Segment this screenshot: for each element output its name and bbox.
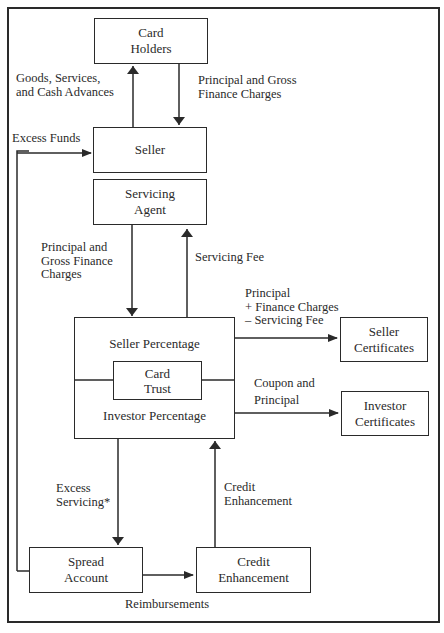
goods-services-label: Goods, Services, and Cash Advances <box>16 72 114 99</box>
card-trust-box: Card Trust <box>113 361 202 400</box>
servicing-fee-label: Servicing Fee <box>195 251 264 265</box>
spread-account-box: Spread Account <box>29 547 143 593</box>
principal-gross-mid-label: Principal and Gross Finance Charges <box>41 241 113 282</box>
reimbursements-label: Reimbursements <box>125 598 209 612</box>
seller-certificates-box: Seller Certificates <box>340 317 428 362</box>
credit-enhancement-box: Credit Enhancement <box>196 547 311 593</box>
principal-finance-servicing-label: Principal + Finance Charges – Servicing … <box>245 287 339 328</box>
investor-certificates-box: Investor Certificates <box>341 391 429 436</box>
credit-enhancement-flow-label: Credit Enhancement <box>224 481 292 508</box>
excess-funds-label: Excess Funds <box>12 132 80 146</box>
coupon-principal-label: Coupon and Principal <box>254 375 315 409</box>
principal-gross-top-label: Principal and Gross Finance Charges <box>198 74 297 101</box>
excess-servicing-label: Excess Servicing* <box>56 482 110 509</box>
